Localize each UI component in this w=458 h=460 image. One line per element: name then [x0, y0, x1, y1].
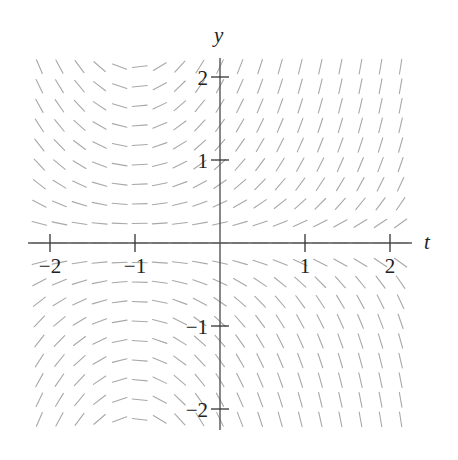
slope-segment	[297, 158, 304, 171]
slope-segment	[36, 393, 43, 407]
slope-segment	[257, 373, 263, 387]
slope-segment	[234, 297, 245, 307]
slope-segment	[399, 334, 403, 348]
slope-segment	[36, 99, 43, 112]
slope-segment	[397, 295, 403, 309]
slope-segment	[53, 201, 67, 207]
slope-segment	[152, 281, 167, 283]
slope-segment	[256, 335, 264, 348]
slope-segment	[35, 119, 43, 132]
slope-segment	[112, 183, 127, 185]
slope-segment	[56, 413, 63, 426]
slope-segment	[277, 334, 284, 347]
slope-segment	[358, 138, 363, 152]
slope-segment	[278, 373, 283, 387]
slope-segment	[358, 314, 364, 328]
slope-segment	[132, 66, 147, 68]
slope-segment	[195, 120, 205, 131]
slope-segment	[354, 259, 367, 267]
slope-segment	[153, 358, 167, 364]
slope-segment	[254, 200, 266, 208]
slope-segment	[398, 158, 403, 172]
slope-segment	[354, 219, 367, 227]
slope-segment	[175, 414, 185, 425]
slope-segment	[132, 341, 147, 342]
tick-label: 1	[198, 149, 209, 173]
slope-segment	[399, 118, 402, 133]
slope-segment	[92, 202, 107, 205]
slope-segment	[319, 392, 323, 407]
slope-segment	[236, 119, 244, 132]
slope-segment	[112, 282, 127, 283]
slope-segment	[278, 393, 283, 407]
slope-segment	[257, 119, 264, 132]
slope-segment	[276, 315, 284, 328]
slope-segment	[153, 319, 167, 323]
slope-segment	[112, 301, 127, 303]
slope-segment	[93, 376, 105, 384]
slope-segment	[153, 415, 166, 423]
slope-segment	[234, 179, 245, 189]
slope-segment	[377, 295, 384, 308]
slope-segment	[379, 59, 381, 74]
slope-segment	[153, 396, 166, 403]
slope-segment	[132, 399, 147, 401]
slope-segment	[298, 99, 303, 113]
slope-segment	[237, 60, 242, 74]
slope-segment	[359, 373, 362, 388]
slope-segment	[92, 300, 106, 304]
slope-segment	[112, 203, 127, 204]
slope-segment	[53, 279, 67, 285]
slope-segment	[55, 100, 64, 112]
slope-segment	[132, 125, 147, 126]
slope-segment	[257, 354, 264, 367]
slope-segment	[74, 100, 84, 111]
slope-segment	[53, 180, 66, 188]
slope-segment	[153, 83, 166, 90]
slope-segment	[195, 374, 204, 386]
slope-segment	[74, 336, 86, 345]
slope-segment	[235, 316, 245, 327]
slope-segment	[335, 198, 345, 209]
slope-segment	[132, 145, 147, 146]
slope-segment	[173, 318, 186, 325]
slope-segment	[92, 281, 107, 284]
slope-segment	[72, 280, 86, 284]
slope-segment	[193, 261, 208, 264]
slope-segment	[358, 334, 363, 348]
slope-segment	[399, 412, 401, 427]
slope-segment	[34, 159, 44, 170]
slope-segment	[113, 397, 127, 402]
slope-segment	[33, 200, 46, 207]
slope-segment	[174, 121, 186, 130]
slope-segment	[337, 178, 345, 191]
slope-segment	[56, 393, 64, 406]
slope-segment	[73, 318, 86, 326]
slope-segment	[174, 101, 185, 111]
slope-segment	[94, 395, 106, 404]
slope-segment	[334, 220, 347, 227]
slope-segment	[152, 300, 167, 303]
slope-segment	[93, 357, 106, 364]
slope-segment	[314, 259, 327, 266]
slope-segment	[396, 198, 405, 210]
slope-segment	[54, 317, 66, 327]
slope-segment	[395, 219, 407, 228]
slope-segment	[316, 296, 324, 309]
slope-segment	[295, 277, 306, 287]
slope-segment	[153, 339, 167, 344]
slope-segment	[72, 261, 87, 263]
slope-segment	[152, 183, 167, 186]
slope-segment	[357, 295, 364, 308]
slope-segment	[113, 417, 127, 422]
slope-segment	[298, 373, 303, 387]
slope-segment	[339, 412, 342, 427]
tick-label: 1	[300, 254, 311, 278]
slope-segment	[53, 298, 66, 306]
slope-segment	[234, 278, 247, 285]
slope-segment	[173, 182, 187, 187]
slope-segment	[172, 262, 187, 264]
slope-segment	[132, 360, 147, 361]
slope-segment	[152, 203, 167, 205]
slope-segment	[92, 182, 106, 186]
